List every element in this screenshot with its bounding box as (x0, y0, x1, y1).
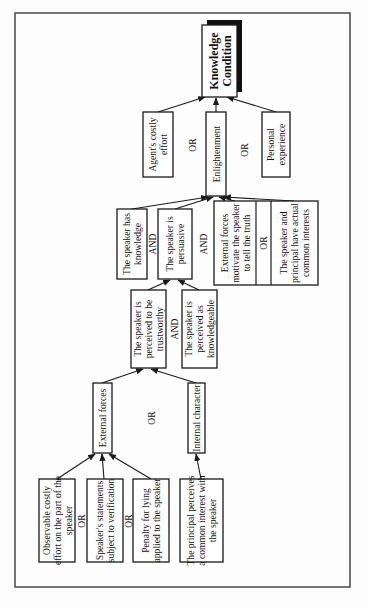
penalty-for-lying-line-1: Penalty for lying (140, 488, 151, 553)
edge-internal-character-to-perceived-trustworthy (151, 369, 196, 383)
operator-persuasive-and: AND (169, 319, 180, 340)
operator-label: AND (169, 319, 180, 340)
node-perceived-trustworthy: The speaker isperceived to betrustworthy (131, 290, 166, 368)
node-actual-common-interests: The speaker andprincipal have actualcomm… (278, 203, 311, 283)
principal-perceives-common-interest-line-2: a common interest with (196, 475, 207, 566)
operator-label: OR (76, 514, 87, 528)
observable-costly-effort-line-2: effort on the part of the (52, 476, 63, 565)
observable-costly-effort-line-3: speaker (63, 505, 74, 535)
perceived-trustworthy-line-3: trustworthy (154, 307, 165, 351)
edge-principal-perceives-common-interest-to-internal-character (196, 454, 201, 479)
actual-common-interests-line-1: The speaker and (278, 211, 289, 274)
node-external-forces: External forces (93, 383, 112, 453)
perceived-trustworthy-text: The speaker isperceived to betrustworthy (132, 300, 165, 359)
personal-experience-line-1: Personal (265, 128, 276, 161)
node-knowledge-condition: KnowledgeCondition (202, 20, 242, 97)
perceived-trustworthy-line-2: perceived to be (143, 300, 154, 359)
principal-perceives-common-interest-line-1: The principal perceives (185, 475, 196, 565)
personal-experience-line-2: experience (276, 124, 287, 166)
node-statements-verification: Speaker's statementssubject to verificat… (87, 478, 123, 562)
penalty-for-lying-text: Penalty for lyingapplied to the speaker (140, 478, 162, 563)
external-forces-motivate-line-2: motivate the speaker (230, 203, 241, 283)
speaker-has-knowledge-line-2: knowledge (132, 223, 143, 265)
agents-costly-effort-line-1: Agent's costly (147, 117, 158, 171)
knowledge-condition-text: KnowledgeCondition (207, 32, 234, 90)
agents-costly-effort-line-2: effort (158, 134, 169, 155)
node-observable-costly-effort: Observable costlyeffort on the part of t… (39, 476, 75, 565)
perceived-knowledgeable-line-1: The speaker is (183, 301, 194, 357)
speaker-is-persuasive-line-2: persuasive (175, 224, 186, 265)
perceived-trustworthy-line-1: The speaker is (132, 301, 143, 357)
node-agents-costly-effort: Agent's costlyeffort (143, 112, 173, 177)
node-perceived-knowledgeable: The speaker isperceived asknowledgeable (182, 290, 217, 368)
actual-common-interests-text: The speaker andprincipal have actualcomm… (278, 203, 311, 283)
operator-enlight-and-1: AND (147, 234, 158, 255)
edge-external-forces-to-perceived-trustworthy (102, 369, 143, 383)
external-forces-motivate-line-1: External forces (219, 214, 230, 273)
statements-verification-line-1: Speaker's statements (94, 481, 105, 561)
operator-root-or-1: OR (187, 138, 198, 152)
operator-label: OR (123, 514, 134, 528)
node-principal-perceives-common-interest: The principal perceivesa common interest… (180, 475, 223, 566)
knowledge-condition-diagram: KnowledgeConditionAgent's costlyeffortEn… (0, 0, 367, 609)
edge-statements-verification-to-external-forces (102, 454, 104, 479)
node-speaker-has-knowledge: The speaker hasknowledge (117, 209, 147, 279)
operator-leaf-or-1: OR (76, 514, 87, 528)
operator-label: OR (239, 143, 250, 157)
perceived-knowledgeable-line-2: perceived as (194, 305, 205, 353)
node-enlightenment: Enlightenment (206, 112, 226, 196)
external-forces-line-1: External forces (97, 389, 108, 448)
operator-label: AND (147, 234, 158, 255)
operator-label: AND (198, 234, 209, 255)
operator-leaf-or-2: OR (123, 514, 134, 528)
statements-verification-line-2: subject to verification (105, 478, 116, 562)
operator-label: OR (187, 138, 198, 152)
internal-character-line-1: Internal character (191, 384, 202, 452)
edge-agents-costly-effort-to-knowledge-condition (158, 97, 205, 112)
speaker-is-persuasive-line-1: The speaker is (164, 216, 175, 272)
knowledge-condition-line-2: Condition (220, 35, 234, 87)
personal-experience-text: Personalexperience (265, 124, 287, 166)
operator-label: OR (258, 236, 269, 250)
actual-common-interests-line-2: principal have actual (289, 203, 300, 283)
edge-speaker-has-knowledge-to-enlightenment (132, 197, 208, 209)
edge-perceived-trustworthy-to-speaker-is-persuasive (148, 280, 170, 290)
knowledge-condition-line-1: Knowledge (207, 32, 221, 90)
principal-perceives-common-interest-line-3: the speaker (207, 498, 218, 542)
penalty-for-lying-line-2: applied to the speaker (151, 478, 162, 563)
operator-label: OR (146, 411, 157, 425)
node-speaker-is-persuasive: The speaker ispersuasive (158, 209, 192, 279)
edge-observable-costly-effort-to-external-forces (57, 454, 95, 479)
diagram-canvas: KnowledgeConditionAgent's costlyeffortEn… (0, 0, 367, 609)
external-forces-text: External forces (97, 389, 108, 448)
actual-common-interests-line-3: common interests (300, 209, 311, 277)
edge-personal-experience-to-knowledge-condition (227, 97, 276, 112)
edge-perceived-knowledgeable-to-speaker-is-persuasive (178, 280, 199, 290)
enlightenment-text: Enlightenment (211, 125, 222, 182)
operator-root-or-2: OR (239, 143, 250, 157)
node-personal-experience: Personalexperience (262, 112, 290, 177)
nodes-layer: KnowledgeConditionAgent's costlyeffortEn… (39, 20, 318, 566)
speaker-has-knowledge-line-1: The speaker has (121, 213, 132, 275)
external-forces-motivate-line-3: to tell the truth (241, 214, 252, 271)
speaker-is-persuasive-text: The speaker ispersuasive (164, 216, 186, 272)
operator-enlight-and-2: AND (198, 234, 209, 255)
perceived-knowledgeable-line-3: knowledgeable (205, 300, 216, 358)
node-penalty-for-lying: Penalty for lyingapplied to the speaker (133, 478, 169, 563)
statements-verification-text: Speaker's statementssubject to verificat… (94, 478, 116, 562)
node-internal-character: Internal character (188, 383, 205, 453)
edge-penalty-for-lying-to-external-forces (109, 454, 151, 479)
operators-layer: ORORANDANDORANDOROROR (76, 138, 269, 528)
observable-costly-effort-line-1: Observable costly (41, 486, 52, 555)
operator-trust-or: OR (146, 411, 157, 425)
enlightenment-line-1: Enlightenment (211, 125, 222, 182)
perceived-knowledgeable-text: The speaker isperceived asknowledgeable (183, 300, 216, 358)
internal-character-text: Internal character (191, 384, 202, 452)
operator-ext-or: OR (258, 236, 269, 250)
